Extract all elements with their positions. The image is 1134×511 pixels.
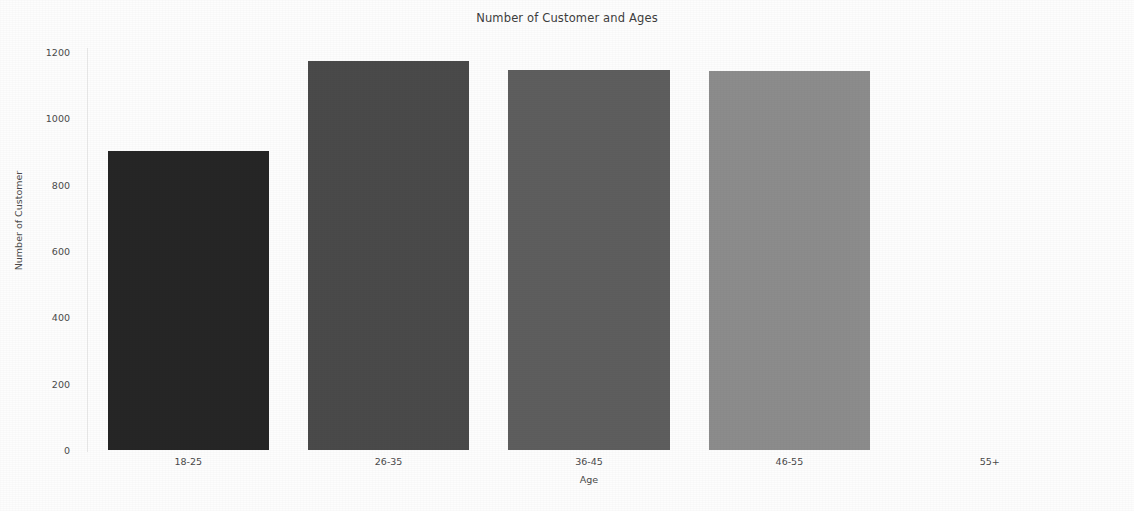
chart-figure: Number of Customer and Ages 020040060080… [0,0,1134,511]
y-axis-label: Number of Customer [13,91,24,351]
bar-36-45 [508,70,669,450]
y-axis-tick-200: 200 [0,378,80,389]
x-axis-tick-18-25: 18-25 [174,456,202,467]
chart-title: Number of Customer and Ages [0,11,1134,25]
y-axis-tick-1200: 1200 [0,47,80,58]
bar-46-55 [709,71,870,450]
y-axis-tick-0: 0 [0,445,80,456]
bars-layer [88,52,1090,450]
bar-18-25 [108,151,269,450]
x-axis-tick-labels: 18-2526-3536-4546-5555+ [88,456,1090,474]
x-axis-tick-55+: 55+ [980,456,1000,467]
x-axis-tick-36-45: 36-45 [575,456,603,467]
x-axis-label: Age [88,474,1090,485]
x-axis-tick-26-35: 26-35 [375,456,403,467]
x-axis-tick-46-55: 46-55 [776,456,804,467]
plot-area [88,52,1090,450]
bar-26-35 [308,61,469,450]
